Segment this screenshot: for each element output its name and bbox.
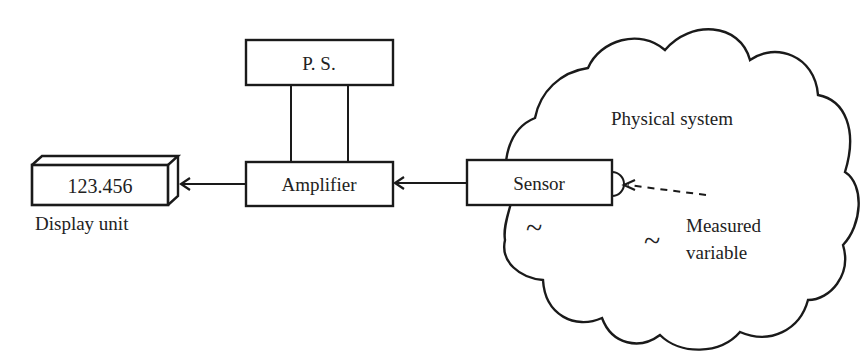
physical-system-label: Physical system (611, 108, 733, 129)
sensor-label: Sensor (513, 173, 565, 194)
measurement-dashed-arrow (628, 185, 706, 195)
diagram-canvas: Physical system Sensor ~ ~ Measured vari… (0, 0, 867, 362)
display-readout: 123.456 (68, 175, 133, 197)
tilde-symbol-sensor: ~ (526, 211, 542, 244)
display-unit-caption: Display unit (35, 213, 129, 234)
arrowhead-icon (624, 180, 635, 190)
power-supply-label: P. S. (302, 53, 335, 74)
tilde-symbol-variable: ~ (644, 224, 660, 257)
measured-variable-label-line2: variable (686, 242, 747, 263)
measured-variable-label-line1: Measured (686, 215, 761, 236)
sensor-probe-icon (612, 172, 624, 196)
amplifier-label: Amplifier (282, 174, 358, 195)
